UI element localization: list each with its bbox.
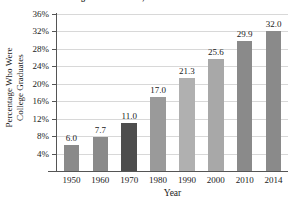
bar-slot: 7.7 — [93, 14, 109, 171]
x-axis-tick-labels: 19501960197019801990200020102014 — [57, 175, 288, 187]
bar-slot: 32.0 — [266, 14, 282, 171]
bar-slot: 25.6 — [208, 14, 224, 171]
x-axis-tick-label: 1980 — [149, 175, 167, 185]
plot-area: 4%8%12%16%20%24%28%32%36% 6.07.711.017.0… — [57, 14, 288, 171]
y-axis-tick-label: 8% — [37, 131, 49, 141]
x-axis-tick-label: 1970 — [120, 175, 138, 185]
x-axis-tick-label: 1950 — [62, 175, 80, 185]
y-axis-tick — [52, 66, 56, 67]
bar — [208, 59, 224, 171]
x-axis-line — [48, 171, 288, 172]
bar-value-label: 11.0 — [121, 111, 136, 121]
bar — [64, 145, 80, 171]
y-axis-tick — [52, 14, 56, 15]
y-axis-tick-label: 24% — [33, 61, 50, 71]
y-axis-tick-label: 36% — [33, 9, 50, 19]
y-axis-tick-label: 4% — [37, 149, 49, 159]
y-axis-title-line-1: Percentage Who Were — [5, 48, 16, 128]
bar — [179, 78, 195, 171]
bar-slot: 21.3 — [179, 14, 195, 171]
y-axis-tick — [52, 84, 56, 85]
bar-slot: 11.0 — [121, 14, 137, 171]
y-axis-tick — [52, 31, 56, 32]
bar — [121, 123, 137, 171]
y-axis-title-line-2: College Graduates — [15, 48, 26, 128]
y-axis-tick — [52, 154, 56, 155]
x-axis-tick-label: 2000 — [207, 175, 225, 185]
bar-value-label: 32.0 — [266, 19, 282, 29]
bar-value-label: 17.0 — [150, 85, 166, 95]
bar-chart: Aged 25 and Older, in the United States … — [0, 0, 292, 203]
x-axis-title: Year — [57, 188, 288, 198]
y-axis-tick-label: 28% — [33, 44, 50, 54]
bar — [266, 31, 282, 171]
bar-slot: 6.0 — [64, 14, 80, 171]
bar-slot: 29.9 — [237, 14, 253, 171]
y-axis-tick — [52, 49, 56, 50]
bar — [150, 97, 166, 171]
x-axis-tick-label: 1990 — [178, 175, 196, 185]
y-axis-tick-label: 12% — [33, 114, 50, 124]
bar — [237, 41, 253, 171]
x-axis-tick-label: 2014 — [265, 175, 283, 185]
bar-value-label: 29.9 — [237, 29, 253, 39]
y-axis-tick — [52, 136, 56, 137]
y-axis-tick-label: 32% — [33, 26, 50, 36]
x-axis-tick-label: 1960 — [91, 175, 109, 185]
chart-title: Aged 25 and Older, in the United States — [0, 0, 292, 2]
x-axis-tick-label: 2010 — [236, 175, 254, 185]
bar — [93, 137, 109, 171]
bar-value-label: 21.3 — [179, 66, 195, 76]
bar-value-label: 25.6 — [208, 47, 224, 57]
y-axis-tick — [52, 119, 56, 120]
y-axis-tick-label: 20% — [33, 79, 50, 89]
y-axis-tick — [52, 101, 56, 102]
y-axis-title: Percentage Who Were College Graduates — [0, 0, 30, 175]
bar-series: 6.07.711.017.021.325.629.932.0 — [57, 14, 288, 171]
bar-slot: 17.0 — [150, 14, 166, 171]
y-axis-tick-label: 16% — [33, 96, 50, 106]
bar-value-label: 7.7 — [95, 125, 106, 135]
bar-value-label: 6.0 — [66, 133, 77, 143]
